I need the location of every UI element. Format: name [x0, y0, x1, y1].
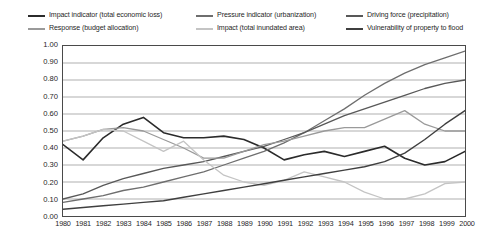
legend-label: Impact (total inundated area)	[217, 25, 305, 32]
x-tick-label: 1997	[399, 220, 414, 227]
x-tick-label: 1994	[338, 220, 353, 227]
legend-entry: Response (budget allocation)	[28, 25, 196, 32]
x-tick-label: 1985	[156, 220, 171, 227]
x-tick-label: 1995	[358, 220, 373, 227]
x-tick-label: 2000	[459, 220, 474, 227]
legend-label: Pressure indicator (urbanization)	[217, 12, 316, 19]
legend-label: Vulnerability of property to flood	[367, 25, 463, 32]
x-tick-label: 1990	[257, 220, 272, 227]
legend-entry: Pressure indicator (urbanization)	[196, 12, 346, 19]
x-axis: 1980198119821983198419851986198719881989…	[62, 220, 466, 234]
legend-line-swatch	[196, 28, 213, 30]
y-tick-label: 0.90	[0, 58, 58, 66]
legend-entry: Impact (total inundated area)	[196, 25, 346, 32]
y-tick-label: 0.50	[0, 127, 58, 135]
x-tick-label: 1987	[197, 220, 212, 227]
y-tick-label: 0.30	[0, 162, 58, 170]
x-tick-label: 1983	[116, 220, 131, 227]
series-line	[63, 51, 465, 202]
x-tick-label: 1988	[217, 220, 232, 227]
legend-label: Response (budget allocation)	[49, 25, 138, 32]
x-tick-label: 1982	[96, 220, 111, 227]
x-tick-label: 1996	[378, 220, 393, 227]
y-tick-label: 0.40	[0, 144, 58, 152]
series-lines	[63, 51, 465, 209]
plot-series-svg	[63, 46, 465, 216]
legend-line-swatch	[196, 15, 213, 17]
x-tick-label: 1981	[75, 220, 90, 227]
x-tick-label: 1984	[136, 220, 151, 227]
x-tick-label: 1999	[439, 220, 454, 227]
x-tick-label: 1986	[176, 220, 191, 227]
plot-area	[62, 45, 466, 217]
y-tick-label: 0.60	[0, 110, 58, 118]
x-tick-label: 1989	[237, 220, 252, 227]
y-tick-label: 0.00	[0, 213, 58, 221]
legend-line-swatch	[346, 15, 363, 17]
y-tick-label: 0.20	[0, 179, 58, 187]
legend-entry: Impact indicator (total economic loss)	[28, 12, 196, 19]
y-tick-label: 0.10	[0, 196, 58, 204]
legend-entry: Vulnerability of property to flood	[346, 25, 480, 32]
series-line	[63, 129, 465, 199]
y-tick-label: 0.80	[0, 76, 58, 84]
legend-line-swatch	[28, 28, 45, 30]
y-tick-label: 0.70	[0, 93, 58, 101]
chart-legend: Impact indicator (total economic loss)Pr…	[28, 9, 480, 35]
x-tick-label: 1993	[318, 220, 333, 227]
legend-entry: Driving force (precipitation)	[346, 12, 480, 19]
x-tick-label: 1992	[298, 220, 313, 227]
x-tick-label: 1980	[55, 220, 70, 227]
series-line	[63, 80, 465, 199]
legend-line-swatch	[346, 28, 363, 30]
x-tick-label: 1991	[277, 220, 292, 227]
y-tick-label: 1.00	[0, 41, 58, 49]
y-axis: 0.000.100.200.300.400.500.600.700.800.90…	[0, 45, 58, 217]
series-line	[63, 111, 465, 210]
line-chart-figure: Impact indicator (total economic loss)Pr…	[0, 0, 480, 240]
legend-label: Driving force (precipitation)	[367, 12, 449, 19]
legend-line-swatch	[28, 15, 45, 17]
series-line	[63, 117, 465, 165]
x-tick-label: 1998	[419, 220, 434, 227]
legend-label: Impact indicator (total economic loss)	[49, 12, 162, 19]
